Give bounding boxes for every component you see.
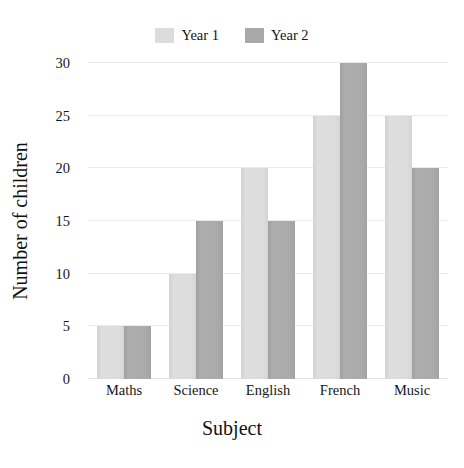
x-axis-title: Subject (0, 418, 464, 438)
x-tick-label: Music (394, 383, 430, 398)
legend-entry-year-1[interactable]: Year 1 (155, 28, 219, 43)
y-tick-label: 5 (63, 319, 70, 334)
legend-swatch-icon (245, 28, 264, 43)
legend-label: Year 1 (181, 28, 219, 43)
bar-chart: Year 1 Year 2 051015202530 MathsScienceE… (0, 0, 464, 468)
bar-group (385, 63, 439, 379)
bar-group (97, 63, 151, 379)
y-tick-label: 20 (56, 161, 71, 176)
y-axis-title: Number of children (10, 142, 30, 300)
y-tick-label: 25 (56, 108, 71, 123)
bar[interactable] (124, 326, 151, 379)
bar[interactable] (313, 116, 340, 379)
chart-legend: Year 1 Year 2 (0, 28, 464, 43)
legend-swatch-icon (155, 28, 174, 43)
legend-label: Year 2 (271, 28, 309, 43)
y-axis-title-wrap: Number of children (0, 63, 40, 379)
bar-group (313, 63, 367, 379)
bar-group (241, 63, 295, 379)
y-tick-label: 30 (56, 56, 71, 71)
bar[interactable] (412, 168, 439, 379)
bar[interactable] (169, 274, 196, 379)
y-tick-label: 15 (56, 214, 71, 229)
bar[interactable] (241, 168, 268, 379)
bar[interactable] (196, 221, 223, 379)
bar[interactable] (385, 116, 412, 379)
y-tick-label: 10 (56, 266, 71, 281)
x-tick-label: Science (173, 383, 218, 398)
bar[interactable] (97, 326, 124, 379)
x-tick-label: French (320, 383, 360, 398)
x-axis-ticks: MathsScienceEnglishFrenchMusic (88, 383, 448, 407)
bars-container (88, 63, 448, 379)
x-tick-label: Maths (106, 383, 142, 398)
x-tick-label: English (246, 383, 290, 398)
plot-area (88, 63, 448, 379)
bar[interactable] (340, 63, 367, 379)
y-tick-label: 0 (63, 372, 70, 387)
bar[interactable] (268, 221, 295, 379)
legend-entry-year-2[interactable]: Year 2 (245, 28, 309, 43)
bar-group (169, 63, 223, 379)
